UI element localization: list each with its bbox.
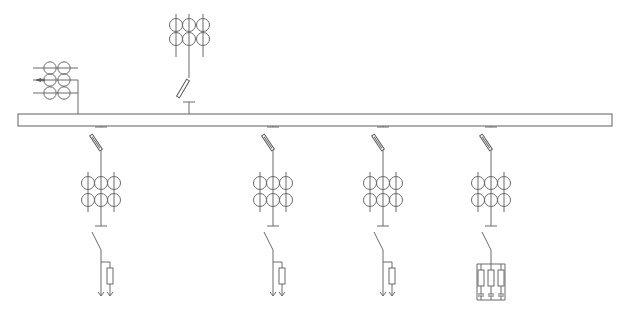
busbar[interactable] [18,114,612,126]
breaker-switch-icon[interactable] [264,232,273,250]
isolator-switch-icon[interactable] [177,79,190,98]
breaker-blade [264,232,273,250]
arrow-shaft [39,79,45,81]
wire [92,137,100,149]
incoming-feeder[interactable] [170,14,210,114]
current-transformer-icon [254,172,293,212]
feeder-4[interactable] [472,126,511,300]
isolator-switch-icon[interactable] [90,134,103,151]
feeder-1[interactable] [82,126,121,296]
current-transformer-icon [82,172,121,212]
current-transformer-icon [364,172,403,212]
resistor-icon [279,268,285,284]
feeder-2[interactable] [254,126,293,296]
wire [482,137,490,149]
breaker-blade [92,232,101,250]
resistor-icon [478,270,484,286]
wire [374,137,382,149]
wire [264,137,272,149]
breaker-blade [374,232,383,250]
isolator-blade [177,79,190,98]
resistor-icon [498,270,504,286]
potential-transformer[interactable] [33,62,78,114]
breaker-switch-icon[interactable] [482,232,491,250]
resistor-icon [389,268,395,284]
resistor-icon [488,270,494,286]
feeder-3[interactable] [364,126,403,296]
single-line-diagram [0,0,626,318]
current-transformer-icon [472,172,511,212]
breaker-switch-icon[interactable] [374,232,383,250]
isolator-switch-icon[interactable] [262,134,275,151]
isolator-switch-icon[interactable] [480,134,493,151]
isolator-switch-icon[interactable] [372,134,385,151]
resistor-icon [107,268,113,284]
breaker-blade [482,232,491,250]
breaker-switch-icon[interactable] [92,232,101,250]
